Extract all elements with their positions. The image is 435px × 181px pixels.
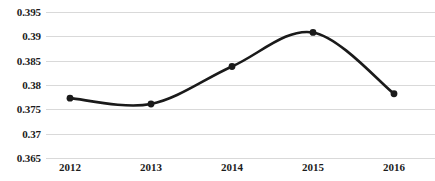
chart-svg [46, 0, 435, 181]
x-axis-tick-label: 2013 [140, 162, 162, 173]
line-chart: 0.3950.390.3850.380.3750.370.365 2012201… [0, 0, 435, 181]
y-axis-tick-label: 0.39 [0, 31, 41, 42]
data-point-marker [310, 29, 317, 36]
plot-area [46, 0, 435, 181]
x-axis-tick-label: 2014 [221, 162, 243, 173]
y-axis-tick-label: 0.365 [0, 153, 41, 164]
data-point-marker [67, 95, 74, 102]
x-axis: 20122013201420152016 [46, 162, 435, 181]
x-axis-tick-label: 2016 [383, 162, 405, 173]
data-point-marker [229, 63, 236, 70]
y-axis-tick-label: 0.395 [0, 7, 41, 18]
y-axis-tick-label: 0.385 [0, 55, 41, 66]
x-axis-tick-label: 2015 [302, 162, 324, 173]
series-markers [67, 29, 398, 107]
data-point-marker [391, 90, 398, 97]
x-axis-tick-label: 2012 [59, 162, 81, 173]
y-axis-tick-label: 0.37 [0, 128, 41, 139]
y-axis: 0.3950.390.3850.380.3750.370.365 [0, 0, 44, 181]
y-axis-tick-label: 0.375 [0, 104, 41, 115]
y-axis-tick-label: 0.38 [0, 80, 41, 91]
data-point-marker [148, 101, 155, 108]
